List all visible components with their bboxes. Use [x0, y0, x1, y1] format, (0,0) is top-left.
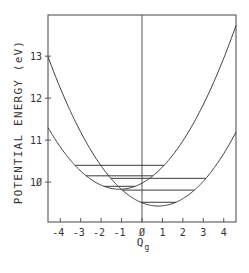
x-axis-ticks: -4-3-2-1Ø1234 [52, 218, 227, 238]
plot-frame [48, 15, 236, 222]
x-tick-label: -3 [73, 227, 85, 238]
y-axis-label: POTENTIAL ENERGY (eV) [12, 40, 25, 204]
x-tick-label: -4 [52, 227, 64, 238]
x-tick-label: 2 [180, 227, 186, 238]
x-tick-label: 1 [159, 227, 165, 238]
x-axis-label: Q g [137, 236, 150, 252]
y-tick-label: 12 [30, 93, 42, 104]
y-tick-label: 11 [30, 135, 42, 146]
x-tick-label: -2 [93, 227, 105, 238]
y-tick-label: 13 [30, 51, 42, 62]
x-axis-label-subscript: g [145, 243, 150, 252]
x-tick-label: 3 [200, 227, 206, 238]
plot-svg: -4-3-2-1Ø1234 1Ø111213 POTENTIAL ENERGY … [0, 0, 249, 273]
x-tick-label: -1 [114, 227, 126, 238]
potential-energy-chart: -4-3-2-1Ø1234 1Ø111213 POTENTIAL ENERGY … [0, 0, 249, 273]
x-axis-label-main: Q [137, 236, 144, 249]
x-tick-label: 4 [221, 227, 227, 238]
y-tick-label: 1Ø [30, 177, 42, 188]
